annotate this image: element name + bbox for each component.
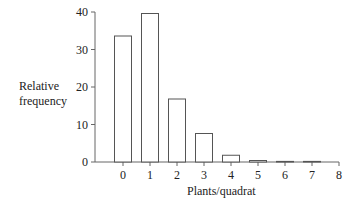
y-tick-label: 0 <box>82 155 88 169</box>
bar-6 <box>277 161 294 162</box>
bars <box>115 14 321 163</box>
x-tick-label: 4 <box>228 168 234 182</box>
x-tick-label: 2 <box>174 168 180 182</box>
x-tick-label: 5 <box>255 168 261 182</box>
bar-7 <box>304 161 321 162</box>
bar-4 <box>223 155 240 162</box>
y-tick-label: 40 <box>76 5 88 19</box>
x-tick-label: 8 <box>336 168 342 182</box>
x-tick-label: 7 <box>309 168 315 182</box>
y-axis-label: Relative frequency <box>19 79 67 109</box>
bar-2 <box>169 99 186 162</box>
y-tick-label: 20 <box>76 80 88 94</box>
y-tick-label: 10 <box>76 118 88 132</box>
bar-5 <box>250 161 267 163</box>
y-axis-label-line-2: frequency <box>19 94 67 109</box>
y-axis-label-line-1: Relative <box>19 79 67 94</box>
x-tick-label: 3 <box>201 168 207 182</box>
bar-3 <box>196 134 213 163</box>
x-tick-label: 0 <box>120 168 126 182</box>
y-tick-label: 30 <box>76 43 88 57</box>
x-tick-label: 6 <box>282 168 288 182</box>
x-axis-label: Plants/quadrat <box>187 184 256 199</box>
x-tick-label: 1 <box>147 168 153 182</box>
bar-1 <box>142 14 159 163</box>
bar-0 <box>115 36 132 162</box>
